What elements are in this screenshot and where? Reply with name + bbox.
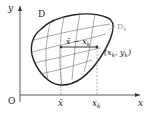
origin-label: O <box>8 96 15 106</box>
x-axis-arrow-icon <box>135 93 140 97</box>
region-d-outline <box>31 14 113 85</box>
segment-label: x̄ − xk <box>66 37 91 47</box>
region-label: D <box>38 9 45 19</box>
centroid-point <box>60 46 62 48</box>
y-axis-label: y <box>7 3 14 13</box>
subregion-label: Dk <box>117 22 127 32</box>
xk-tick-label: xk <box>92 98 101 109</box>
sample-point <box>96 46 99 49</box>
point-label: (xk, yk) <box>104 48 131 58</box>
centroid-diagram: y x O D Dk x̄ − xk (xk, yk) x̄ xk <box>0 0 147 113</box>
partition-grid <box>32 13 110 85</box>
subregion-leader-line <box>108 26 116 30</box>
xbar-tick-label: x̄ <box>58 98 63 108</box>
y-axis-arrow-icon <box>18 6 22 11</box>
x-axis-label: x <box>138 98 143 108</box>
